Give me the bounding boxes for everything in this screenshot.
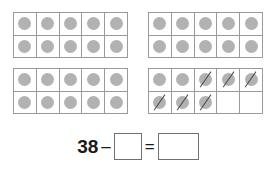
cell[interactable] bbox=[82, 92, 105, 114]
counter-icon bbox=[110, 73, 123, 86]
subtraction-equation: 38 – = bbox=[0, 133, 276, 160]
counter-icon bbox=[176, 40, 189, 53]
counter-icon bbox=[64, 73, 77, 86]
counter-icon bbox=[153, 40, 166, 53]
cell-crossed[interactable] bbox=[240, 69, 262, 91]
cell[interactable] bbox=[37, 69, 60, 91]
ten-frames-row-bottom bbox=[13, 68, 263, 114]
cell[interactable] bbox=[172, 13, 195, 35]
cell[interactable] bbox=[149, 13, 172, 35]
counter-icon bbox=[110, 17, 123, 30]
ten-frame-1 bbox=[13, 12, 128, 58]
ten-frame-3-row-1 bbox=[14, 69, 127, 92]
cell[interactable] bbox=[195, 36, 218, 58]
counter-icon bbox=[87, 73, 100, 86]
cell[interactable] bbox=[105, 92, 127, 114]
ten-frame-2 bbox=[148, 12, 263, 58]
subtrahend-answer-box[interactable] bbox=[114, 133, 142, 160]
cell[interactable] bbox=[105, 13, 127, 35]
counter-icon bbox=[222, 17, 235, 30]
counter-icon bbox=[176, 73, 189, 86]
ten-frame-1-row-2 bbox=[14, 36, 127, 58]
counter-icon bbox=[199, 40, 212, 53]
cell[interactable] bbox=[37, 13, 60, 35]
cell[interactable] bbox=[217, 13, 240, 35]
counter-icon bbox=[222, 40, 235, 53]
cell-crossed[interactable] bbox=[195, 69, 218, 91]
counter-icon bbox=[176, 17, 189, 30]
counter-icon bbox=[153, 73, 166, 86]
equals-sign: = bbox=[145, 138, 155, 155]
cell-crossed[interactable] bbox=[217, 69, 240, 91]
ten-frames-group bbox=[13, 12, 263, 114]
counter-icon bbox=[41, 96, 54, 109]
cell[interactable] bbox=[37, 36, 60, 58]
cell-empty[interactable] bbox=[240, 92, 262, 114]
cell[interactable] bbox=[172, 69, 195, 91]
cell[interactable] bbox=[105, 36, 127, 58]
cell-crossed[interactable] bbox=[172, 92, 195, 114]
ten-frame-1-row-1 bbox=[14, 13, 127, 36]
cell[interactable] bbox=[240, 13, 262, 35]
ten-frame-2-row-2 bbox=[149, 36, 262, 58]
counter-icon bbox=[199, 17, 212, 30]
cell[interactable] bbox=[14, 69, 37, 91]
counter-icon bbox=[64, 40, 77, 53]
counter-icon bbox=[245, 17, 258, 30]
cell-crossed[interactable] bbox=[195, 92, 218, 114]
counter-icon bbox=[41, 73, 54, 86]
counter-icon bbox=[245, 40, 258, 53]
ten-frame-3-row-2 bbox=[14, 92, 127, 114]
cell[interactable] bbox=[82, 13, 105, 35]
ten-frame-4 bbox=[148, 68, 263, 114]
counter-icon bbox=[64, 96, 77, 109]
cell[interactable] bbox=[60, 69, 83, 91]
counter-icon bbox=[41, 17, 54, 30]
cell[interactable] bbox=[60, 92, 83, 114]
counter-icon bbox=[110, 96, 123, 109]
counter-icon bbox=[87, 40, 100, 53]
cell[interactable] bbox=[14, 13, 37, 35]
minus-sign: – bbox=[101, 138, 110, 155]
difference-answer-box[interactable] bbox=[158, 133, 199, 160]
cell[interactable] bbox=[82, 69, 105, 91]
cell[interactable] bbox=[60, 13, 83, 35]
ten-frame-2-row-1 bbox=[149, 13, 262, 36]
ten-frames-row-top bbox=[13, 12, 263, 58]
cell[interactable] bbox=[82, 36, 105, 58]
cell[interactable] bbox=[149, 36, 172, 58]
cell[interactable] bbox=[37, 92, 60, 114]
counter-icon bbox=[110, 40, 123, 53]
minuend-value: 38 bbox=[77, 137, 98, 156]
cell[interactable] bbox=[195, 13, 218, 35]
counter-icon bbox=[64, 17, 77, 30]
cell[interactable] bbox=[172, 36, 195, 58]
cell-empty[interactable] bbox=[217, 92, 240, 114]
cell[interactable] bbox=[60, 36, 83, 58]
counter-icon bbox=[18, 73, 31, 86]
ten-frame-subtraction-worksheet: 38 – = bbox=[0, 0, 276, 175]
cell[interactable] bbox=[14, 92, 37, 114]
counter-icon bbox=[87, 96, 100, 109]
cell[interactable] bbox=[105, 69, 127, 91]
counter-icon bbox=[87, 17, 100, 30]
cell[interactable] bbox=[14, 36, 37, 58]
cell-crossed[interactable] bbox=[149, 92, 172, 114]
cell[interactable] bbox=[240, 36, 262, 58]
counter-icon bbox=[18, 17, 31, 30]
cell[interactable] bbox=[217, 36, 240, 58]
counter-icon bbox=[18, 96, 31, 109]
counter-icon bbox=[18, 40, 31, 53]
ten-frame-4-row-2 bbox=[149, 92, 262, 114]
counter-icon bbox=[41, 40, 54, 53]
ten-frame-4-row-1 bbox=[149, 69, 262, 92]
cell[interactable] bbox=[149, 69, 172, 91]
counter-icon bbox=[153, 17, 166, 30]
ten-frame-3 bbox=[13, 68, 128, 114]
